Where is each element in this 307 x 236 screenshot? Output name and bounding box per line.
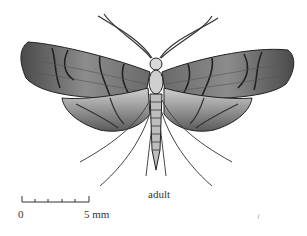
scale-end-label: 5 mm (84, 208, 109, 220)
figure-caption: adult (148, 188, 170, 200)
antennae (98, 14, 218, 58)
scale-start-label: 0 (18, 208, 24, 220)
right-forewing (162, 49, 294, 98)
moth-figure: adult 0 5 mm (0, 0, 307, 236)
left-forewing (21, 42, 150, 98)
scale-bar (22, 196, 89, 202)
moth-drawing (0, 0, 307, 236)
body (149, 58, 163, 170)
